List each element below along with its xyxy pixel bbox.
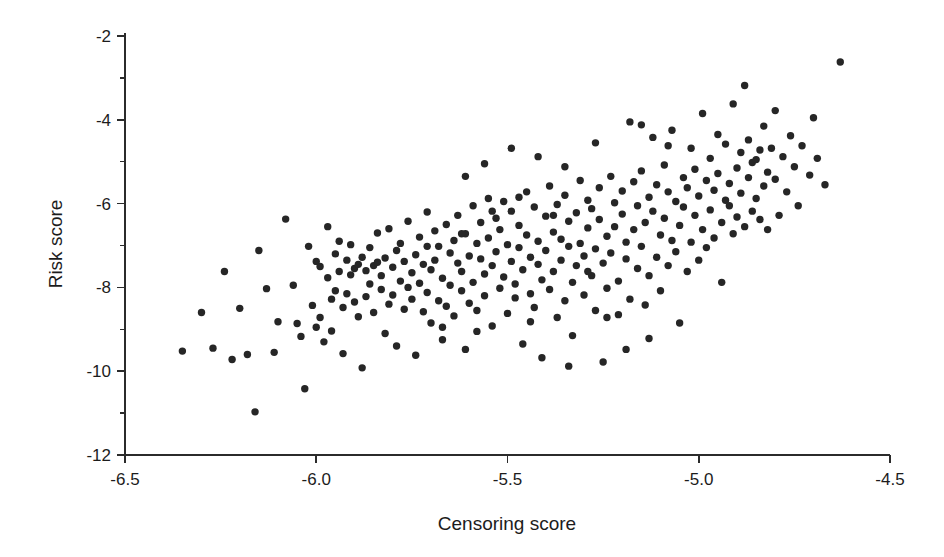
scatter-point — [615, 277, 622, 284]
scatter-point — [412, 352, 419, 359]
scatter-point — [458, 230, 465, 237]
scatter-point — [531, 203, 538, 210]
scatter-point — [343, 290, 350, 297]
scatter-point — [569, 279, 576, 286]
scatter-point — [355, 261, 362, 268]
scatter-point — [481, 160, 488, 167]
scatter-point — [783, 188, 790, 195]
scatter-point — [431, 227, 438, 234]
scatter-point — [412, 251, 419, 258]
scatter-point — [584, 197, 591, 204]
scatter-point — [741, 223, 748, 230]
scatter-point — [378, 272, 385, 279]
scatter-point — [332, 287, 339, 294]
scatter-point — [596, 184, 603, 191]
scatter-point — [749, 207, 756, 214]
scatter-point — [634, 265, 641, 272]
scatter-point — [489, 262, 496, 269]
scatter-point — [385, 300, 392, 307]
scatter-point — [301, 385, 308, 392]
scatter-point — [676, 319, 683, 326]
scatter-point — [638, 167, 645, 174]
x-axis-tick-labels: -6.5-6.0-5.5-5.0-4.5 — [110, 470, 904, 489]
scatter-point — [209, 344, 216, 351]
scatter-point — [366, 280, 373, 287]
x-axis: -6.5-6.0-5.5-5.0-4.5 — [110, 455, 904, 489]
scatter-point — [538, 276, 545, 283]
scatter-point — [668, 237, 675, 244]
scatter-point — [473, 307, 480, 314]
scatter-point — [687, 145, 694, 152]
scatter-point — [198, 309, 205, 316]
scatter-point — [454, 259, 461, 266]
scatter-point — [274, 318, 281, 325]
scatter-point — [378, 286, 385, 293]
scatter-point — [489, 207, 496, 214]
scatter-point — [389, 291, 396, 298]
scatter-point — [343, 256, 350, 263]
scatter-point — [733, 164, 740, 171]
scatter-point — [634, 202, 641, 209]
scatter-point — [481, 292, 488, 299]
scatter-point — [603, 233, 610, 240]
scatter-point — [236, 305, 243, 312]
scatter-point — [557, 256, 564, 263]
scatter-point — [672, 248, 679, 255]
scatter-point — [607, 249, 614, 256]
scatter-point — [592, 245, 599, 252]
scatter-point — [806, 171, 813, 178]
scatter-point — [657, 231, 664, 238]
scatter-point — [320, 338, 327, 345]
scatter-point — [469, 202, 476, 209]
scatter-point — [431, 256, 438, 263]
scatter-point — [726, 180, 733, 187]
scatter-point — [485, 195, 492, 202]
scatter-point — [500, 273, 507, 280]
scatter-point — [554, 314, 561, 321]
scatter-point — [313, 324, 320, 331]
scatter-point — [569, 332, 576, 339]
scatter-point — [573, 262, 580, 269]
scatter-point — [374, 259, 381, 266]
y-tick-label: -12 — [86, 446, 111, 465]
scatter-point — [316, 263, 323, 270]
scatter-point — [458, 287, 465, 294]
scatter-point — [511, 294, 518, 301]
scatter-point — [737, 149, 744, 156]
scatter-point — [695, 256, 702, 263]
scatter-point — [397, 240, 404, 247]
scatter-point — [328, 327, 335, 334]
scatter-point — [729, 100, 736, 107]
scatter-point — [466, 300, 473, 307]
scatter-point — [638, 121, 645, 128]
scatter-point — [324, 223, 331, 230]
scatter-point — [584, 224, 591, 231]
plot-canvas: -2-4-6-8-10-12 -6.5-6.0-5.5-5.0-4.5 Cens… — [0, 0, 944, 557]
scatter-point — [607, 173, 614, 180]
scatter-point — [251, 408, 258, 415]
scatter-point — [772, 107, 779, 114]
scatter-point — [401, 258, 408, 265]
scatter-point — [611, 199, 618, 206]
scatter-point — [228, 356, 235, 363]
scatter-point — [408, 295, 415, 302]
scatter-point — [347, 271, 354, 278]
scatter-point — [630, 226, 637, 233]
scatter-point — [534, 238, 541, 245]
scatter-point — [615, 311, 622, 318]
scatter-point — [485, 234, 492, 241]
scatter-point — [515, 194, 522, 201]
x-tick-label: -4.5 — [875, 470, 904, 489]
scatter-point — [745, 136, 752, 143]
scatter-point — [814, 155, 821, 162]
x-axis-ticks — [125, 455, 890, 463]
scatter-point — [446, 282, 453, 289]
scatter-point — [710, 186, 717, 193]
scatter-point — [565, 218, 572, 225]
scatter-point — [561, 297, 568, 304]
scatter-point — [661, 215, 668, 222]
scatter-point — [221, 268, 228, 275]
scatter-point — [703, 177, 710, 184]
scatter-point — [439, 274, 446, 281]
scatter-point — [408, 269, 415, 276]
